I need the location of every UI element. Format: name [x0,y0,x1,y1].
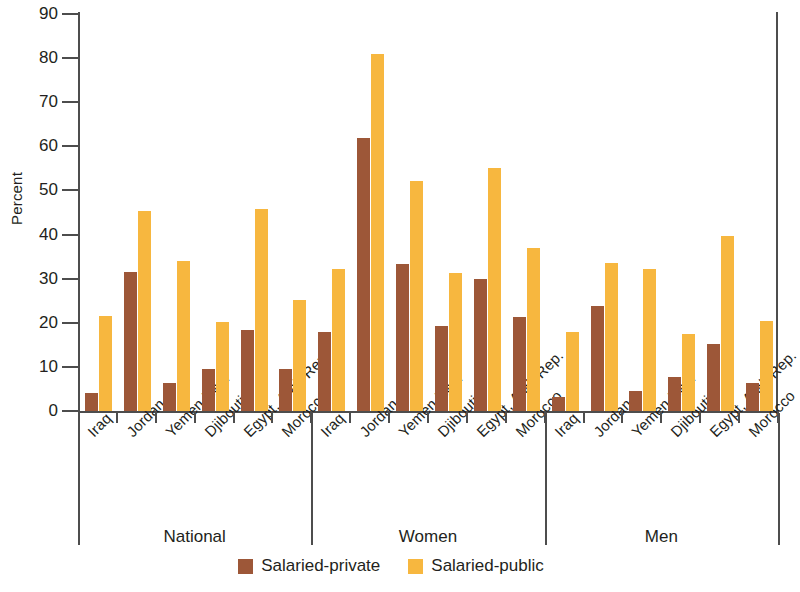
bar [241,330,254,411]
legend-label: Salaried-private [261,556,380,576]
bar [746,383,759,411]
bar [643,269,656,411]
x-axis-tick [271,411,273,423]
y-axis-tick [62,410,80,412]
bar [435,326,448,411]
bar [760,321,773,411]
x-axis-tick [427,411,429,423]
bar [668,377,681,411]
y-axis-tick [62,189,80,191]
bar [566,332,579,411]
bar [449,273,462,411]
bar [552,397,565,411]
bar [255,209,268,411]
x-axis-tick [233,411,235,423]
bar [396,264,409,411]
y-axis-tick [62,278,80,280]
x-axis-category-label: Iraq [84,409,115,440]
y-axis-tick-label: 40 [14,226,58,243]
y-axis-tick-label: 50 [14,181,58,198]
bar [513,317,526,411]
x-axis-tick [505,411,507,423]
group-separator [78,413,80,545]
bar [202,369,215,411]
bar [474,279,487,411]
x-axis-tick [349,411,351,423]
bar [605,263,618,411]
bar [707,344,720,411]
legend-swatch [408,559,423,574]
x-axis-tick [621,411,623,423]
y-axis-tick [62,13,80,15]
bar [85,393,98,411]
y-axis-tick-label: 20 [14,314,58,331]
bar [410,181,423,411]
x-axis-tick [466,411,468,423]
x-axis-tick [155,411,157,423]
group-separator [545,413,547,545]
legend-label: Salaried-public [431,556,543,576]
group-label: National [78,527,311,547]
group-separator [778,413,780,545]
bar [177,261,190,411]
y-axis-tick [62,366,80,368]
y-axis-tick-label: 80 [14,49,58,66]
y-axis-tick [62,234,80,236]
bar [371,54,384,411]
x-axis-category-label: Iraq [551,409,582,440]
bar [332,269,345,411]
y-axis-tick-label: 10 [14,358,58,375]
y-axis-tick-label: 90 [14,5,58,22]
legend-item: Salaried-private [238,556,380,576]
x-axis-category-label: Iraq [317,409,348,440]
bar [357,138,370,411]
legend-item: Salaried-public [408,556,543,576]
bar [318,332,331,411]
bar [527,248,540,411]
group-label: Men [545,527,778,547]
bar [216,322,229,411]
y-axis-tick-label: 70 [14,93,58,110]
chart-legend: Salaried-privateSalaried-public [0,556,782,576]
bar [591,306,604,411]
bar [293,300,306,411]
group-separator [311,413,313,545]
x-axis-tick [116,411,118,423]
bar [279,369,292,411]
x-axis-tick [738,411,740,423]
group-label: Women [311,527,544,547]
x-axis-tick [660,411,662,423]
bar [721,236,734,411]
bar [124,272,137,411]
x-axis-tick [194,411,196,423]
y-axis-tick-label: 30 [14,270,58,287]
y-axis-tick [62,101,80,103]
x-axis-tick [699,411,701,423]
y-axis-tick [62,145,80,147]
bar [163,383,176,411]
y-axis-tick-label: 60 [14,137,58,154]
bar [682,334,695,411]
x-axis-tick [583,411,585,423]
bar [138,211,151,411]
y-axis-tick-labels: 0102030405060708090 [0,0,58,592]
y-axis-tick-label: 0 [14,402,58,419]
x-axis-tick [388,411,390,423]
y-axis-tick [62,57,80,59]
legend-swatch [238,559,253,574]
bar [99,316,112,411]
y-axis-tick [62,322,80,324]
bar [629,391,642,411]
bar [488,168,501,411]
